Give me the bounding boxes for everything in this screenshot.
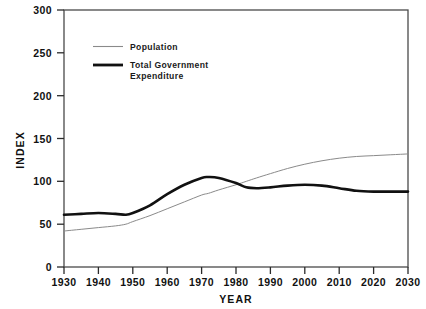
x-tick-label: 1930 [52,276,77,288]
legend-label-total-government-expenditure-line2: Expenditure [130,71,184,81]
y-tick-labels: 300 250 200 150 100 50 0 [33,4,52,273]
x-tick-label: 2010 [327,276,352,288]
chart-container: 300 250 200 150 100 50 0 1930 1940 19 [0,0,426,309]
y-tick-label: 300 [33,4,52,16]
x-axis-title: YEAR [219,293,253,305]
line-chart: 300 250 200 150 100 50 0 1930 1940 19 [0,0,426,309]
y-tick-label: 100 [33,175,52,187]
x-tick-label: 2030 [396,276,421,288]
y-tick-label: 250 [33,47,52,59]
x-axis-ticks [64,267,408,274]
plot-frame [64,10,408,267]
y-axis-title: INDEX [14,131,26,169]
x-tick-label: 1990 [258,276,283,288]
y-tick-label: 200 [33,90,52,102]
x-tick-label: 1980 [224,276,249,288]
y-axis-ticks [57,10,64,267]
y-tick-label: 0 [46,261,52,273]
legend-label-population: Population [130,42,178,52]
x-tick-labels: 1930 1940 1950 1960 1970 1980 1990 2000 … [52,276,421,288]
x-tick-label: 1950 [120,276,145,288]
x-tick-label: 1970 [189,276,214,288]
y-tick-label: 50 [40,218,52,230]
x-tick-label: 1960 [155,276,180,288]
x-tick-label: 2020 [361,276,386,288]
x-tick-label: 2000 [292,276,317,288]
y-tick-label: 150 [33,133,52,145]
legend-label-total-government-expenditure: Total Government [130,60,209,70]
x-tick-label: 1940 [86,276,111,288]
